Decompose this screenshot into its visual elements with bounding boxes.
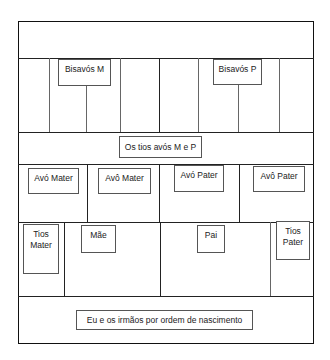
self-and-siblings-box: Eu e os irmãos por ordem de nascimento: [76, 310, 253, 330]
grandfather-paternal-label: Avô Pater: [260, 171, 297, 181]
center-column-line: [159, 164, 160, 222]
uncles-maternal-box: Tios Mater: [23, 224, 59, 274]
great-grandparents-paternal-box: Bisavós P: [213, 59, 262, 85]
grandfather-maternal-box: Avô Mater: [98, 168, 151, 194]
parents-divider: [64, 222, 65, 296]
father-label: Pai: [205, 230, 217, 240]
grandparents-divider: [87, 164, 88, 222]
column-line: [238, 85, 239, 132]
uncles-maternal-label-line2: Mater: [24, 240, 58, 251]
grandfather-paternal-box: Avô Pater: [253, 166, 305, 192]
uncles-maternal-label-line1: Tios: [24, 229, 58, 240]
uncles-paternal-label-line1: Tios: [277, 226, 309, 237]
grandfather-maternal-label: Avô Mater: [105, 173, 144, 183]
column-line: [86, 86, 87, 132]
mother-label: Mãe: [90, 230, 107, 240]
self-and-siblings-label: Eu e os irmãos por ordem de nascimento: [87, 315, 242, 326]
column-line: [120, 58, 121, 132]
column-line: [279, 58, 280, 132]
grandparents-divider: [239, 164, 240, 222]
great-grandparents-paternal-label: Bisavós P: [219, 64, 257, 74]
grandmother-paternal-box: Avó Pater: [174, 165, 224, 192]
great-uncles-box: Os tios avós M e P: [119, 136, 202, 158]
column-line: [49, 58, 50, 132]
row-divider-great-grandparents: [18, 132, 314, 133]
uncles-paternal-box: Tios Pater: [276, 221, 310, 260]
row-divider-parents: [18, 296, 314, 297]
center-column-line: [160, 222, 161, 296]
great-grandparents-maternal-box: Bisavós M: [58, 59, 111, 86]
center-column-line: [159, 58, 160, 132]
grandmother-paternal-label: Avó Pater: [180, 170, 217, 180]
great-grandparents-maternal-label: Bisavós M: [65, 64, 104, 74]
great-uncles-label: Os tios avós M e P: [125, 142, 196, 153]
row-divider-great-uncles: [18, 164, 314, 165]
grandmother-maternal-label: Avó Mater: [34, 173, 73, 183]
uncles-paternal-label-line2: Pater: [277, 237, 309, 248]
father-box: Pai: [197, 225, 225, 253]
column-line: [198, 58, 199, 132]
mother-box: Mãe: [81, 225, 116, 253]
parents-divider: [270, 222, 271, 296]
grandmother-maternal-box: Avó Mater: [28, 168, 79, 194]
